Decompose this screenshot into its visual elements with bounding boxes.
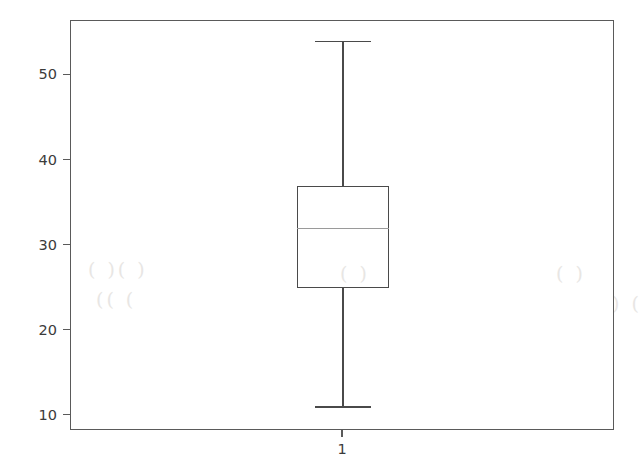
plot-frame	[70, 20, 614, 430]
box-plot-figure: ( )( ) (( ( ( ) ( ) ) ( 5040302010 1	[0, 0, 644, 471]
y-axis-tick-label: 50	[39, 65, 57, 83]
box-plot-upper-whisker	[342, 41, 344, 186]
y-axis-tick-mark	[63, 74, 70, 75]
box-plot-iqr-box[interactable]	[297, 186, 389, 288]
y-axis-tick-mark	[63, 414, 70, 415]
box-plot-lower-whisker	[342, 288, 344, 407]
y-axis-tick-label: 40	[39, 151, 57, 169]
box-plot-upper-cap	[315, 41, 371, 43]
scan-smudge: ) (	[612, 292, 642, 314]
y-axis-tick-mark	[63, 244, 70, 245]
box-plot-box-group[interactable]	[71, 21, 613, 429]
y-axis-tick-mark	[63, 159, 70, 160]
y-axis-tick-label: 10	[39, 406, 57, 424]
x-axis-tick-mark	[341, 430, 342, 437]
y-axis-tick-label: 20	[39, 321, 57, 339]
x-axis-tick-label: 1	[337, 441, 346, 457]
y-axis-tick-label: 30	[39, 236, 57, 254]
box-plot-median-line	[297, 228, 389, 230]
y-axis-tick-mark	[63, 329, 70, 330]
box-plot-lower-cap	[315, 406, 371, 408]
